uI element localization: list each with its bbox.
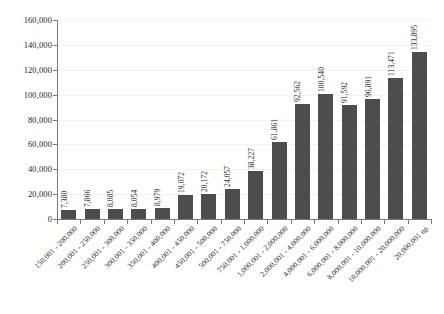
bar-slot: 61,861 (267, 20, 290, 219)
bar[interactable]: 8,085 (108, 209, 123, 219)
y-axis-tick-mark (53, 120, 57, 121)
y-axis-tick-label: 20,000 (28, 189, 52, 199)
bar[interactable]: 100,540 (318, 94, 333, 219)
y-axis-tick-mark (53, 95, 57, 96)
bar-slot: 91,592 (338, 20, 361, 219)
y-axis-tick-mark (53, 144, 57, 145)
y-axis-tick-label: 100,000 (24, 90, 52, 100)
bar-value-label: 91,592 (340, 82, 349, 103)
y-axis-tick-mark (53, 20, 57, 21)
bar-slot: 133,895 (408, 20, 431, 219)
bar-value-label: 7,380 (60, 190, 69, 207)
bar-value-label: 19,072 (177, 172, 186, 193)
bar-value-label: 92,562 (293, 81, 302, 102)
y-axis-tick-label: 160,000 (24, 15, 52, 25)
bar-value-label: 61,861 (270, 119, 279, 140)
y-axis-tick-mark (53, 219, 57, 220)
bar-slot: 19,072 (174, 20, 197, 219)
bar[interactable]: 20,172 (201, 194, 216, 219)
bar-slot: 38,227 (244, 20, 267, 219)
bar-slot: 20,172 (197, 20, 220, 219)
bar-value-label: 7,866 (83, 190, 92, 207)
y-axis-tick-mark (53, 45, 57, 46)
bar-slot: 8,054 (127, 20, 150, 219)
bar[interactable]: 96,891 (365, 99, 380, 220)
bar-slot: 113,471 (384, 20, 407, 219)
bar[interactable]: 61,861 (272, 142, 287, 219)
y-axis-tick-label: 80,000 (28, 115, 52, 125)
bar-chart: 020,00040,00060,00080,000100,000120,0001… (0, 0, 444, 314)
bar[interactable]: 38,227 (248, 171, 263, 219)
bar[interactable]: 113,471 (388, 78, 403, 219)
bar[interactable]: 92,562 (295, 104, 310, 219)
bar[interactable]: 19,072 (178, 195, 193, 219)
bar-value-label: 100,540 (317, 67, 326, 92)
bar-value-label: 8,979 (153, 188, 162, 205)
bar-value-label: 113,471 (387, 51, 396, 76)
bar[interactable]: 24,057 (225, 189, 240, 219)
bar-slot: 96,891 (361, 20, 384, 219)
bar-slot: 7,866 (80, 20, 103, 219)
y-axis-tick-label: 40,000 (28, 164, 52, 174)
y-axis-tick-mark (53, 70, 57, 71)
bar-slot: 8,085 (104, 20, 127, 219)
y-axis-tick-mark (53, 169, 57, 170)
bar-series: 7,3807,8668,0858,0548,97919,07220,17224,… (57, 20, 431, 219)
bar-slot: 92,562 (291, 20, 314, 219)
y-axis-tick-label: 140,000 (24, 40, 52, 50)
bar[interactable]: 8,979 (155, 208, 170, 219)
bar-value-label: 24,057 (223, 166, 232, 187)
y-axis-tick-label: 120,000 (24, 65, 52, 75)
bar-slot: 24,057 (221, 20, 244, 219)
y-axis-labels: 020,00040,00060,00080,000100,000120,0001… (0, 20, 52, 219)
bar-value-label: 133,895 (410, 25, 419, 50)
bar[interactable]: 7,380 (61, 210, 76, 219)
bar[interactable]: 91,592 (342, 105, 357, 219)
x-axis-tick-mark (431, 219, 432, 224)
x-axis-labels: 150,001 - 200,000200,001 - 250,000250,00… (57, 224, 431, 314)
bar-value-label: 38,227 (247, 148, 256, 169)
y-axis-tick-mark (53, 194, 57, 195)
bar[interactable]: 133,895 (412, 52, 427, 219)
bar-slot: 7,380 (57, 20, 80, 219)
bar[interactable]: 8,054 (131, 209, 146, 219)
bar[interactable]: 7,866 (85, 209, 100, 219)
y-axis-tick-label: 0 (48, 214, 52, 224)
bar-value-label: 96,891 (364, 75, 373, 96)
y-axis-tick-label: 60,000 (28, 139, 52, 149)
bar-value-label: 8,085 (106, 190, 115, 207)
bar-slot: 8,979 (151, 20, 174, 219)
bar-slot: 100,540 (314, 20, 337, 219)
bar-value-label: 8,054 (130, 190, 139, 207)
bar-value-label: 20,172 (200, 171, 209, 192)
